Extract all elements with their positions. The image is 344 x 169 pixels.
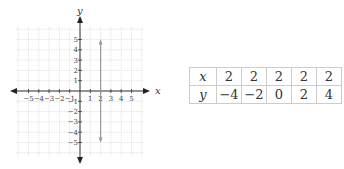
- svg-text:4: 4: [119, 95, 124, 103]
- table-row-y: y −4 −2 0 2 4: [190, 86, 342, 104]
- svg-text:1: 1: [74, 77, 78, 85]
- cell: 2: [292, 68, 317, 86]
- row-label: y: [190, 86, 217, 104]
- cell: 4: [317, 86, 342, 104]
- svg-text:−5: −5: [68, 139, 78, 147]
- svg-text:−3: −3: [44, 95, 54, 103]
- xy-table: x 2 2 2 2 2 y −4 −2 0 2 4: [189, 67, 342, 104]
- svg-text:−2: −2: [68, 108, 78, 116]
- svg-text:−4: −4: [34, 95, 45, 103]
- svg-text:1: 1: [88, 95, 92, 103]
- svg-text:2: 2: [74, 67, 78, 75]
- svg-text:x: x: [155, 85, 161, 96]
- cell: −2: [242, 86, 267, 104]
- cell: 2: [217, 68, 242, 86]
- row-label: x: [190, 68, 217, 86]
- svg-text:4: 4: [74, 46, 79, 54]
- svg-text:−4: −4: [68, 129, 79, 137]
- cell: 2: [292, 86, 317, 104]
- svg-text:3: 3: [109, 95, 113, 103]
- svg-text:−3: −3: [68, 118, 78, 126]
- svg-text:−5: −5: [23, 95, 33, 103]
- svg-text:3: 3: [74, 57, 78, 65]
- table-row-x: x 2 2 2 2 2: [190, 68, 342, 86]
- cell: 2: [317, 68, 342, 86]
- svg-text:y: y: [76, 5, 83, 16]
- svg-text:−2: −2: [54, 95, 64, 103]
- svg-text:−1: −1: [68, 98, 78, 106]
- cell: 2: [242, 68, 267, 86]
- svg-text:5: 5: [74, 36, 78, 44]
- cell: −4: [217, 86, 242, 104]
- cell: 2: [267, 68, 292, 86]
- coordinate-graph: xy−5−4−3−2−112345−5−4−3−2−112345: [0, 0, 180, 169]
- cell: 0: [267, 86, 292, 104]
- svg-text:5: 5: [129, 95, 133, 103]
